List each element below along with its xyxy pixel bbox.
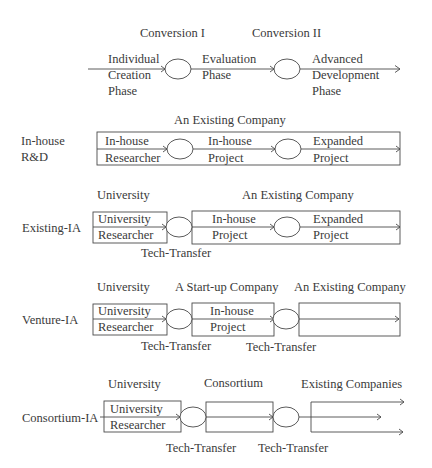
consortium-ia-model: University Consortium Existing Companies… [22,376,404,455]
cell-3-line-1: Expanded [313,212,364,226]
conversion-node [167,139,193,159]
phase-2-line-1: Evaluation [202,52,257,66]
existing-company-label: An Existing Company [242,188,355,202]
phase-1-line-1: Individual [108,52,160,66]
tech-transfer-node [180,407,206,427]
consortium-label: Consortium [204,376,263,390]
cell-2-line-2: Project [208,151,244,165]
cell-1-line-1: In-house [105,134,149,148]
startup-company-label: A Start-up Company [175,280,279,294]
phase-3-line-3: Phase [312,84,342,98]
cell-1-line-2: Researcher [98,320,154,334]
conversion-2-node [274,59,300,79]
tech-transfer-node [166,217,192,237]
cell-1-line-1: University [110,402,164,416]
university-label: University [97,188,151,202]
model-label: Venture-IA [22,313,78,327]
conversion-node [274,217,300,237]
cell-1-line-2: Researcher [110,418,166,432]
tech-transfer-node [166,309,192,329]
phase-2-line-2: Phase [202,68,232,82]
venture-ia-model: University A Start-up Company An Existin… [22,280,407,354]
cell-1-line-2: Researcher [105,151,161,165]
cell-3-line-2: Project [313,228,349,242]
cell-2-line-2: Project [212,228,248,242]
tech-transfer-label: Tech-Transfer [141,246,212,260]
cell-1-line-2: Researcher [98,228,154,242]
tech-transfer-node [273,407,299,427]
tech-transfer-label-1: Tech-Transfer [141,339,212,353]
model-label: Existing-IA [22,221,81,235]
tech-transfer-label-2: Tech-Transfer [246,340,317,354]
existing-companies-label: Existing Companies [301,377,402,391]
cell-1-line-1: University [98,304,152,318]
model-label-line-1: In-house [21,134,65,148]
inhouse-rd-model: An Existing Company In-house R&D In-hous… [21,113,400,165]
phase-1-line-2: Creation [108,68,152,82]
university-label: University [97,280,151,294]
model-label-line-2: R&D [21,150,48,164]
cell-1-line-1: University [98,212,152,226]
university-label: University [108,377,162,391]
tech-transfer-label-2: Tech-Transfer [258,441,329,455]
cell-2-line-2: Project [210,320,246,334]
cell-3-line-2: Project [313,151,349,165]
conversion-1-node [165,59,191,79]
tech-transfer-node [273,309,299,329]
phase-overview: Conversion I Conversion II Individual Cr… [88,26,400,98]
phase-3-line-2: Development [312,68,380,82]
conversion-node [275,139,301,159]
existing-company-label: An Existing Company [294,280,407,294]
conversion-1-label: Conversion I [140,26,205,40]
conversion-2-label: Conversion II [252,26,321,40]
existing-ia-model: University An Existing Company Existing-… [22,188,400,260]
tech-transfer-label-1: Tech-Transfer [166,441,237,455]
cell-2-line-1: In-house [208,134,252,148]
cell-3-line-1: Expanded [313,134,364,148]
existing-company-box [299,303,400,336]
innovation-model-diagram: Conversion I Conversion II Individual Cr… [0,0,432,468]
cell-2-line-1: In-house [210,304,254,318]
model-label: Consortium-IA [22,411,98,425]
existing-company-label: An Existing Company [174,113,287,127]
phase-1-line-3: Phase [108,84,138,98]
phase-3-line-1: Advanced [312,52,363,66]
cell-2-line-1: In-house [212,212,256,226]
